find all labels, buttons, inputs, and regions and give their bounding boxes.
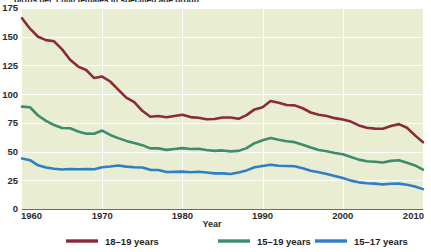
y-tick-label: 0 xyxy=(13,203,18,214)
plot-background xyxy=(22,8,423,209)
x-axis-title: Year xyxy=(202,219,222,229)
y-axis-tick-labels: 0255075100125150175 xyxy=(2,2,19,214)
y-tick-label: 25 xyxy=(7,175,18,186)
legend-label-2: 15–17 years xyxy=(354,236,408,247)
x-axis-tick-labels: 196019701980199020002010 xyxy=(21,210,424,221)
y-tick-label: 125 xyxy=(2,60,19,71)
legend-label-1: 15–19 years xyxy=(257,236,311,247)
x-tick-label: 2000 xyxy=(332,210,353,221)
y-tick-label: 50 xyxy=(7,146,18,157)
y-tick-label: 100 xyxy=(2,89,18,100)
x-tick-label: 1980 xyxy=(172,210,193,221)
x-tick-label: 2010 xyxy=(403,210,424,221)
legend-label-0: 18–19 years xyxy=(105,236,159,247)
line-chart: 0255075100125150175 19601970198019902000… xyxy=(0,0,431,252)
chart-legend: 18–19 years15–19 years15–17 years xyxy=(66,236,408,247)
y-tick-label: 175 xyxy=(2,2,19,13)
chart-figure: births per 1,000 females in specified ag… xyxy=(0,0,431,252)
chart-title: births per 1,000 females in specified ag… xyxy=(14,0,199,2)
y-tick-label: 75 xyxy=(7,117,18,128)
x-tick-label: 1960 xyxy=(21,210,42,221)
x-tick-label: 1970 xyxy=(92,210,113,221)
y-tick-label: 150 xyxy=(2,31,18,42)
x-tick-label: 1990 xyxy=(252,210,273,221)
